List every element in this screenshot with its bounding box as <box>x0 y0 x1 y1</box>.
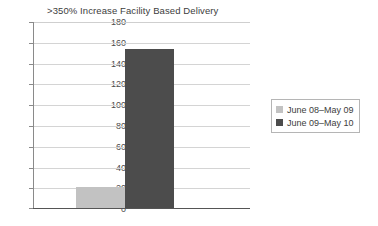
plot-area <box>33 22 250 209</box>
legend-item: June 08–May 09 <box>276 103 354 116</box>
y-tick-mark <box>29 168 33 169</box>
y-tick-mark <box>29 147 33 148</box>
y-axis-line <box>33 22 34 209</box>
y-tick-mark <box>29 64 33 65</box>
y-tick-mark <box>29 43 33 44</box>
bar-june-09-may-10 <box>125 49 174 208</box>
x-axis-line <box>33 208 250 209</box>
bar-chart: >350% Increase Facility Based Delivery 1… <box>0 0 378 226</box>
y-tick-mark <box>29 188 33 189</box>
legend-swatch-icon <box>276 119 283 126</box>
gridline <box>33 22 250 23</box>
legend-label: June 09–May 10 <box>287 118 354 128</box>
y-tick-mark <box>29 84 33 85</box>
bar-june-08-may-09 <box>76 187 125 208</box>
y-tick-mark <box>29 22 33 23</box>
legend-swatch-icon <box>276 106 283 113</box>
legend-label: June 08–May 09 <box>287 105 354 115</box>
y-tick-mark <box>29 105 33 106</box>
chart-legend: June 08–May 09 June 09–May 10 <box>271 99 360 133</box>
legend-item: June 09–May 10 <box>276 116 354 129</box>
y-tick-mark <box>29 126 33 127</box>
gridline <box>33 43 250 44</box>
